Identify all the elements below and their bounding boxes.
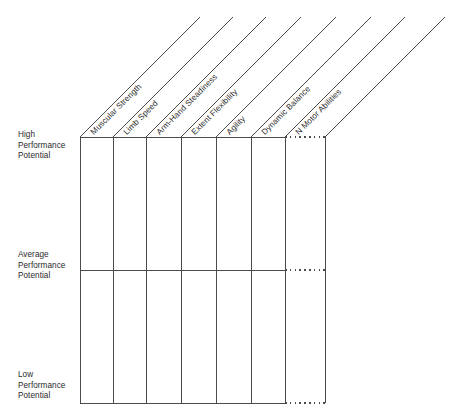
leader-line-7	[325, 17, 445, 137]
leader-line-6	[285, 17, 405, 137]
axis-level-low: Low Performance Potential	[18, 370, 80, 402]
axis-level-high: High Performance Potential	[18, 130, 80, 162]
motor-abilities-profile-diagram: High Performance Potential Average Perfo…	[0, 0, 455, 418]
diagram-canvas	[0, 0, 455, 418]
axis-level-average: Average Performance Potential	[18, 250, 80, 282]
